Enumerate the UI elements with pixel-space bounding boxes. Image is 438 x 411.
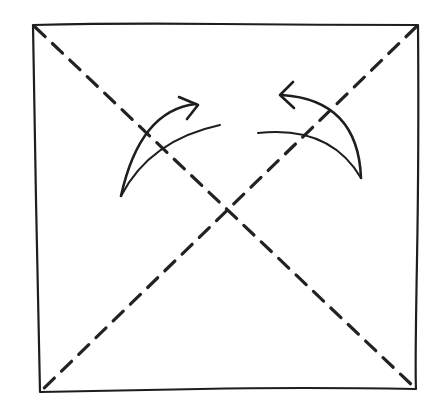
left-fold-arrow-icon — [121, 97, 220, 196]
fold-line-diagonal-tr-bl — [42, 27, 416, 390]
fold-line-diagonal-tl-br — [35, 27, 414, 387]
origami-fold-diagram — [0, 0, 438, 411]
